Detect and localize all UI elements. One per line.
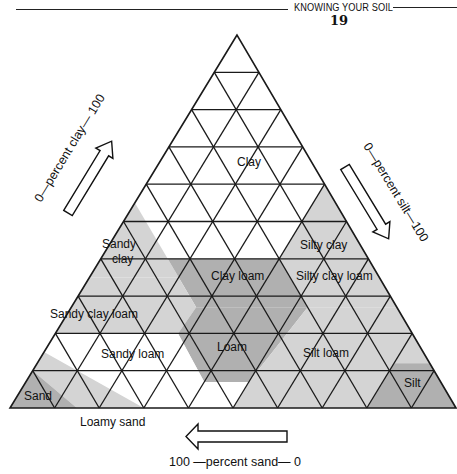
label-sandy-loam: Sandy loam [101,347,164,361]
label-sand: Sand [24,389,52,403]
soil-texture-triangle: ClaySandyclaySilty clayClay loamSilty cl… [0,0,457,474]
label-sandy-clay: clay [112,252,133,266]
silt-axis-label: 0—percent silt—100 [360,140,431,244]
label-clay: Clay [237,155,261,169]
sand-arrow-icon [186,424,287,449]
label-loamy-sand: Loamy sand [80,415,145,429]
label-silt: Silt [404,376,421,390]
label-silty-clay: Silty clay [300,238,347,252]
label-sandy-clay-loam: Sandy clay loam [50,307,138,321]
label-loam: Loam [217,340,247,354]
sand-axis-label: 100 —percent sand— 0 [169,455,301,469]
region-sandy-clay-loam [55,277,196,333]
label-clay-loam: Clay loam [211,269,264,283]
label-sandy-clay: Sandy [102,237,136,251]
label-silty-clay-loam: Silty clay loam [296,269,373,283]
label-silt-loam: Silt loam [303,346,349,360]
